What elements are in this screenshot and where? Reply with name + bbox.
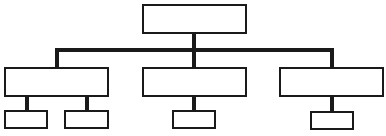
connector-to-child-2 <box>192 48 196 68</box>
grandchild-node-1-2 <box>64 110 109 129</box>
child-node-1 <box>4 67 109 97</box>
connector-to-grandchild-2 <box>85 96 89 111</box>
connector-to-grandchild-1 <box>25 96 29 111</box>
grandchild-node-2-1 <box>172 110 216 129</box>
grandchild-node-3-1 <box>310 111 354 130</box>
connector-to-child-1 <box>55 48 59 68</box>
grandchild-node-1-1 <box>4 110 48 129</box>
connector-to-grandchild-3 <box>192 96 196 111</box>
child-node-2 <box>142 67 247 97</box>
connector-to-child-3 <box>330 48 334 68</box>
root-node <box>142 4 247 34</box>
connector-to-grandchild-4 <box>330 96 334 112</box>
child-node-3 <box>279 67 384 97</box>
